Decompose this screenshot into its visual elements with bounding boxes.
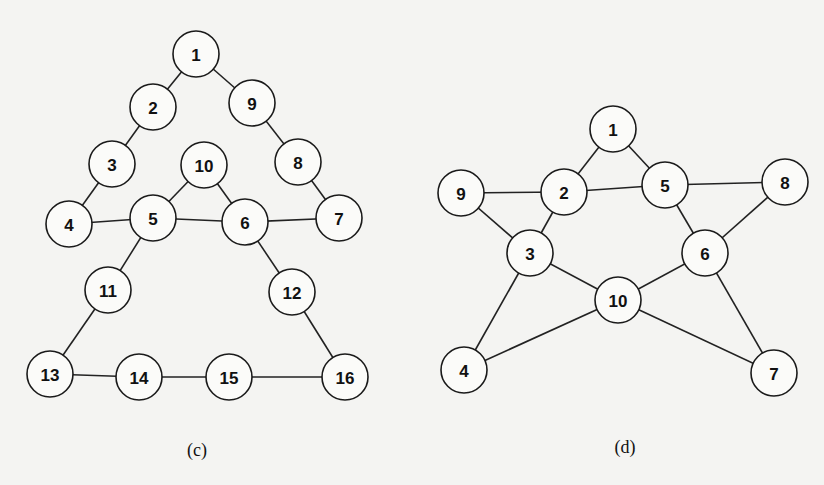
edge-10-7: [618, 300, 774, 373]
node-label: 9: [456, 185, 465, 204]
node-14: 14: [116, 354, 162, 400]
node-label: 5: [660, 177, 669, 196]
node-label: 3: [525, 245, 534, 264]
node-3: 3: [89, 141, 135, 187]
node-label: 2: [148, 99, 157, 118]
node-2: 2: [130, 84, 176, 130]
node-9: 9: [229, 80, 275, 126]
graph-d-nodes: 12345678910: [438, 106, 808, 396]
node-label: 6: [700, 245, 709, 264]
node-label: 4: [64, 216, 74, 235]
node-label: 10: [195, 157, 214, 176]
node-7: 7: [751, 350, 797, 396]
node-13: 13: [27, 351, 73, 397]
node-label: 9: [247, 95, 256, 114]
edge-4-10: [464, 300, 618, 370]
node-label: 4: [459, 362, 469, 381]
node-7: 7: [316, 195, 362, 241]
node-label: 10: [609, 292, 628, 311]
node-15: 15: [206, 354, 252, 400]
node-10: 10: [595, 277, 641, 323]
node-label: 6: [240, 214, 249, 233]
graph-figure: 12345678910111213141516 (c) 12345678910 …: [0, 0, 824, 485]
node-label: 7: [769, 365, 778, 384]
node-label: 14: [130, 369, 149, 388]
node-label: 3: [107, 156, 116, 175]
graph-c: 12345678910111213141516 (c): [27, 31, 368, 461]
node-label: 7: [334, 210, 343, 229]
graph-d: 12345678910 (d): [438, 106, 808, 458]
node-9: 9: [438, 170, 484, 216]
node-1: 1: [590, 106, 636, 152]
node-1: 1: [173, 31, 219, 77]
node-label: 5: [148, 210, 157, 229]
node-6: 6: [222, 199, 268, 245]
node-6: 6: [682, 230, 728, 276]
node-label: 8: [780, 174, 789, 193]
node-3: 3: [507, 230, 553, 276]
node-label: 16: [336, 369, 355, 388]
node-label: 11: [99, 282, 117, 301]
graph-c-nodes: 12345678910111213141516: [27, 31, 368, 400]
caption-c: (c): [187, 440, 207, 461]
node-label: 1: [608, 121, 617, 140]
node-label: 13: [41, 366, 60, 385]
node-12: 12: [269, 269, 315, 315]
node-4: 4: [441, 347, 487, 393]
node-label: 2: [559, 184, 568, 203]
graph-c-edges: [50, 54, 345, 377]
node-8: 8: [762, 159, 808, 205]
node-2: 2: [541, 169, 587, 215]
node-label: 12: [283, 284, 302, 303]
node-5: 5: [642, 162, 688, 208]
node-4: 4: [46, 201, 92, 247]
node-11: 11: [85, 267, 131, 313]
node-8: 8: [275, 139, 321, 185]
node-label: 15: [220, 369, 239, 388]
node-5: 5: [130, 195, 176, 241]
node-label: 8: [293, 154, 302, 173]
node-label: 1: [191, 46, 200, 65]
caption-d: (d): [615, 437, 636, 458]
node-16: 16: [322, 354, 368, 400]
node-10: 10: [181, 142, 227, 188]
